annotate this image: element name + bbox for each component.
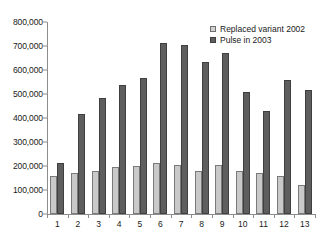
- bar-replaced-variant-2002: [174, 165, 181, 214]
- x-axis-tick-label: 12: [279, 220, 288, 229]
- bar-pulse-in-2003: [284, 80, 291, 214]
- bar-group: [212, 22, 233, 214]
- bar-group: [171, 22, 192, 214]
- x-axis-tick-mark: [315, 214, 316, 218]
- x-axis-tick-mark: [88, 214, 89, 218]
- bar-replaced-variant-2002: [195, 171, 202, 214]
- bar-pulse-in-2003: [222, 53, 229, 214]
- bar-replaced-variant-2002: [256, 173, 263, 214]
- x-axis-tick-label: 6: [158, 220, 163, 229]
- bar-replaced-variant-2002: [133, 166, 140, 214]
- x-axis-tick-mark: [233, 214, 234, 218]
- chart-legend: Replaced variant 2002 Pulse in 2003: [210, 25, 305, 46]
- y-axis-tick-label: 400,000: [13, 114, 47, 123]
- x-axis-tick-label: 4: [117, 220, 122, 229]
- legend-item-replaced-variant-2002: Replaced variant 2002: [210, 25, 305, 34]
- x-axis-tick-label: 2: [76, 220, 81, 229]
- x-axis-tick-mark: [274, 214, 275, 218]
- y-axis-tick-label: 500,000: [13, 90, 47, 99]
- legend-label: Pulse in 2003: [220, 36, 272, 45]
- y-axis-tick-label: 800,000: [13, 18, 47, 27]
- plot-area: 0100,000200,000300,000400,000500,000600,…: [47, 22, 315, 214]
- x-axis-tick-mark: [212, 214, 213, 218]
- y-axis-tick-label: 100,000: [13, 186, 47, 195]
- bar-group: [68, 22, 89, 214]
- x-axis-tick-label: 9: [220, 220, 225, 229]
- bar-replaced-variant-2002: [298, 185, 305, 214]
- bar-group: [129, 22, 150, 214]
- legend-item-pulse-in-2003: Pulse in 2003: [210, 36, 305, 45]
- bar-replaced-variant-2002: [112, 167, 119, 214]
- bar-pulse-in-2003: [57, 163, 64, 214]
- bar-pulse-in-2003: [202, 62, 209, 214]
- bar-pulse-in-2003: [181, 45, 188, 214]
- y-axis-tick-label: 200,000: [13, 162, 47, 171]
- bar-group: [294, 22, 315, 214]
- bar-group: [109, 22, 130, 214]
- x-axis-tick-label: 8: [199, 220, 204, 229]
- bar-pulse-in-2003: [140, 78, 147, 214]
- bar-replaced-variant-2002: [153, 163, 160, 214]
- bar-group: [191, 22, 212, 214]
- y-axis-tick-label: 600,000: [13, 66, 47, 75]
- legend-swatch-icon: [210, 26, 216, 32]
- bar-pulse-in-2003: [78, 114, 85, 214]
- x-axis-tick-mark: [47, 214, 48, 218]
- x-axis-tick-label: 5: [137, 220, 142, 229]
- x-axis-tick-label: 3: [96, 220, 101, 229]
- bar-group: [88, 22, 109, 214]
- x-axis-tick-mark: [150, 214, 151, 218]
- bar-group: [274, 22, 295, 214]
- bar-replaced-variant-2002: [277, 176, 284, 214]
- x-axis-tick-mark: [294, 214, 295, 218]
- legend-swatch-icon: [210, 37, 216, 43]
- bar-replaced-variant-2002: [71, 173, 78, 214]
- bar-pulse-in-2003: [99, 98, 106, 214]
- bar-pulse-in-2003: [305, 90, 312, 214]
- bar-pulse-in-2003: [263, 111, 270, 214]
- bar-group: [47, 22, 68, 214]
- bar-replaced-variant-2002: [215, 165, 222, 214]
- x-axis-tick-mark: [129, 214, 130, 218]
- bar-pulse-in-2003: [243, 92, 250, 214]
- bar-group: [233, 22, 254, 214]
- bar-group: [150, 22, 171, 214]
- x-axis-tick-label: 7: [179, 220, 184, 229]
- bar-replaced-variant-2002: [50, 176, 57, 214]
- bar-pulse-in-2003: [119, 85, 126, 214]
- y-axis-tick-label: 700,000: [13, 42, 47, 51]
- bar-pulse-in-2003: [160, 43, 167, 214]
- x-axis-tick-label: 13: [300, 220, 309, 229]
- bar-chart: 0100,000200,000300,000400,000500,000600,…: [0, 0, 326, 241]
- x-axis-tick-label: 1: [55, 220, 60, 229]
- bar-replaced-variant-2002: [92, 171, 99, 214]
- x-axis-tick-mark: [253, 214, 254, 218]
- x-axis-tick-label: 11: [259, 220, 268, 229]
- legend-label: Replaced variant 2002: [220, 25, 305, 34]
- bar-replaced-variant-2002: [236, 171, 243, 214]
- x-axis-tick-mark: [109, 214, 110, 218]
- x-axis-tick-label: 10: [238, 220, 247, 229]
- y-axis-tick-label: 300,000: [13, 138, 47, 147]
- x-axis-tick-mark: [191, 214, 192, 218]
- bar-group: [253, 22, 274, 214]
- x-axis-line: [47, 214, 315, 215]
- x-axis-tick-mark: [68, 214, 69, 218]
- x-axis-tick-mark: [171, 214, 172, 218]
